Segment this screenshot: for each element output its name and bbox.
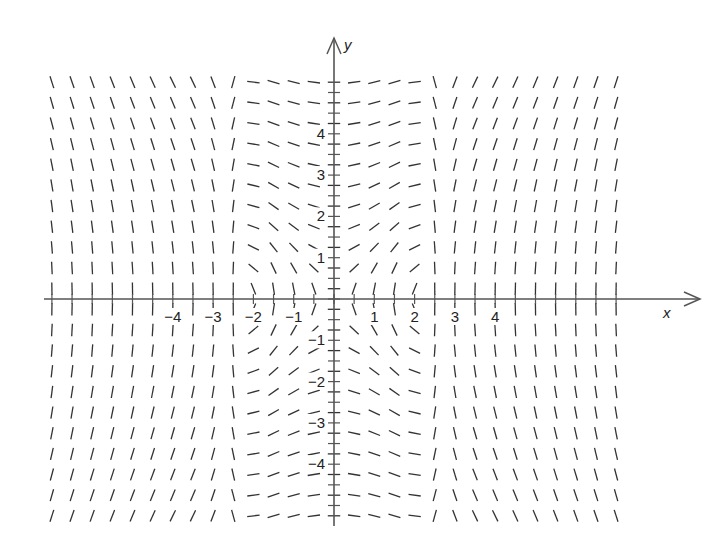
- slope-segment: [409, 494, 421, 496]
- slope-segment: [51, 138, 54, 150]
- slope-segment: [368, 142, 380, 146]
- slope-segment: [389, 182, 400, 188]
- slope-segment: [212, 221, 214, 233]
- slope-segment: [247, 515, 259, 517]
- slope-segment: [308, 184, 320, 187]
- slope-segment: [348, 204, 360, 208]
- slope-segment: [191, 490, 196, 501]
- slope-segment: [112, 241, 113, 253]
- slope-segment: [213, 262, 214, 274]
- slope-segment: [171, 427, 174, 439]
- slope-segment: [211, 489, 215, 501]
- slope-segment: [352, 304, 356, 316]
- slope-segment: [291, 263, 297, 274]
- slope-segment: [312, 304, 316, 316]
- slope-segment: [575, 386, 577, 398]
- slope-segment: [409, 474, 421, 476]
- slope-segment: [150, 97, 155, 109]
- slope-segment: [534, 407, 537, 419]
- slope-segment: [152, 345, 153, 357]
- slope-segment: [453, 489, 457, 501]
- slope-segment: [233, 344, 234, 356]
- slope-segment: [190, 77, 195, 88]
- slope-segment: [268, 101, 280, 105]
- slope-segment: [92, 262, 93, 274]
- slope-segment: [352, 283, 356, 295]
- slope-segment: [268, 80, 280, 84]
- slope-segment: [594, 489, 598, 501]
- slope-segment: [233, 324, 234, 336]
- slope-segment: [269, 203, 279, 210]
- slope-segment: [576, 262, 577, 274]
- slope-segment: [369, 431, 381, 436]
- slope-segment: [350, 264, 359, 272]
- slope-segment: [247, 102, 259, 104]
- slope-segment: [373, 283, 375, 295]
- slope-segment: [251, 283, 256, 295]
- slope-segment: [514, 179, 517, 191]
- slope-segment: [594, 469, 597, 481]
- y-tick-label: 1: [317, 249, 325, 266]
- slope-segment: [595, 344, 596, 356]
- slope-segment: [91, 407, 93, 419]
- slope-segment: [409, 123, 421, 125]
- slope-segment: [409, 411, 421, 414]
- slope-segment: [410, 264, 420, 272]
- slope-segment: [574, 97, 578, 109]
- slope-segment: [192, 386, 195, 398]
- slope-segment: [435, 324, 436, 336]
- slope-segment: [493, 97, 498, 108]
- slope-segment: [172, 262, 173, 274]
- slope-segment: [248, 225, 260, 229]
- slope-segment: [170, 490, 175, 501]
- slope-segment: [50, 118, 53, 130]
- slope-segment: [233, 386, 235, 398]
- slope-segment: [131, 469, 135, 481]
- slope-segment: [596, 324, 597, 336]
- slope-segment: [389, 410, 400, 416]
- slope-segment: [454, 159, 457, 171]
- slope-segment: [289, 346, 298, 355]
- slope-segment: [515, 241, 516, 253]
- slope-segment: [534, 118, 538, 130]
- slope-segment: [554, 448, 557, 460]
- slope-segment: [249, 326, 259, 334]
- slope-segment: [211, 510, 215, 522]
- slope-segment: [453, 510, 457, 522]
- slope-segment: [554, 138, 557, 150]
- slope-segment: [70, 76, 74, 88]
- slope-segment: [495, 324, 496, 336]
- slope-segment: [111, 179, 114, 191]
- slope-segment: [308, 432, 320, 435]
- slope-segment: [112, 345, 113, 357]
- slope-segment: [515, 262, 516, 274]
- slope-segment: [71, 200, 73, 212]
- slope-segment: [554, 118, 558, 130]
- slope-segment: [212, 386, 214, 398]
- y-tick-label: −2: [308, 373, 325, 390]
- slope-segment: [90, 489, 94, 501]
- slope-segment: [533, 77, 538, 88]
- slope-segment: [91, 365, 93, 377]
- slope-segment: [151, 138, 155, 150]
- slope-segment: [152, 324, 153, 336]
- slope-segment: [91, 448, 94, 460]
- slope-segment: [514, 159, 517, 171]
- slope-segment: [51, 200, 53, 212]
- slope-segment: [193, 324, 194, 336]
- slope-segment: [112, 221, 114, 233]
- slope-segment: [191, 159, 195, 171]
- slope-segment: [132, 345, 133, 357]
- slope-segment: [191, 138, 195, 150]
- slope-segment: [535, 345, 536, 357]
- slope-segment: [51, 159, 53, 171]
- slope-segment: [595, 138, 598, 150]
- slope-segment: [192, 407, 195, 419]
- slope-segment: [112, 365, 114, 377]
- slope-segment: [369, 410, 380, 415]
- slope-segment: [595, 427, 598, 439]
- slope-segment: [233, 221, 234, 233]
- slope-segment: [247, 474, 259, 476]
- slope-segment: [233, 365, 234, 377]
- slope-segment: [576, 324, 577, 336]
